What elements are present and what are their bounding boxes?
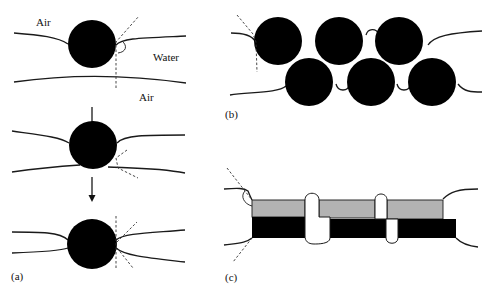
particle [347, 58, 395, 106]
panel-c: (c) [224, 168, 478, 284]
platelet-gray [387, 200, 443, 219]
contact-angle-lines [237, 15, 257, 72]
film-bottom-right [108, 167, 185, 173]
particle [68, 20, 116, 68]
panel-label-c: (c) [225, 271, 238, 284]
particle [254, 17, 302, 65]
particle [285, 58, 333, 106]
figure-canvas: Air Water Air (a) [0, 0, 492, 292]
film-top-left [14, 33, 68, 44]
film-bottom-left [12, 165, 80, 172]
label-air-bottom: Air [139, 91, 154, 103]
particle [67, 219, 117, 269]
particle [315, 17, 363, 65]
platelet-black [252, 217, 305, 238]
panel-a-stage-3: (a) [11, 216, 185, 283]
particle [69, 121, 117, 169]
arrow-down-icon [89, 177, 96, 202]
film-top-right [443, 189, 478, 199]
platelet-black [398, 219, 456, 238]
particle [408, 58, 456, 106]
platelet-black [330, 219, 386, 238]
label-water: Water [153, 51, 179, 63]
film-top-left [12, 131, 69, 143]
water-pocket [375, 194, 387, 219]
platelet-gray [252, 200, 305, 217]
film-top-right [116, 230, 185, 240]
panel-a-stage-2 [12, 121, 185, 178]
platelet-gray [319, 200, 375, 218]
water-pocket [386, 219, 398, 243]
film-top-right [428, 31, 482, 45]
label-air-top: Air [36, 16, 51, 28]
particle [375, 17, 423, 65]
film-top-right [116, 36, 186, 45]
panel-a-stage-1: Air Water Air [14, 16, 186, 103]
film-bottom [14, 76, 186, 83]
film-top-left [231, 33, 255, 41]
panel-label-a: (a) [11, 270, 24, 283]
film-bottom-left [12, 248, 68, 253]
panel-label-b: (b) [225, 108, 238, 121]
film-bottom-left [224, 238, 252, 245]
contact-angle-lines [116, 150, 138, 178]
contact-angle-line-top [227, 168, 252, 200]
film-bottom-right [456, 238, 478, 247]
film-top-left [12, 232, 68, 240]
contact-angle-line-top [117, 222, 137, 242]
contact-angle-line-bottom [233, 238, 252, 262]
film-bottom-left [230, 86, 286, 95]
film-bottom-right [458, 84, 482, 92]
film-top-right [117, 135, 185, 143]
panel-b: (b) [225, 15, 482, 121]
